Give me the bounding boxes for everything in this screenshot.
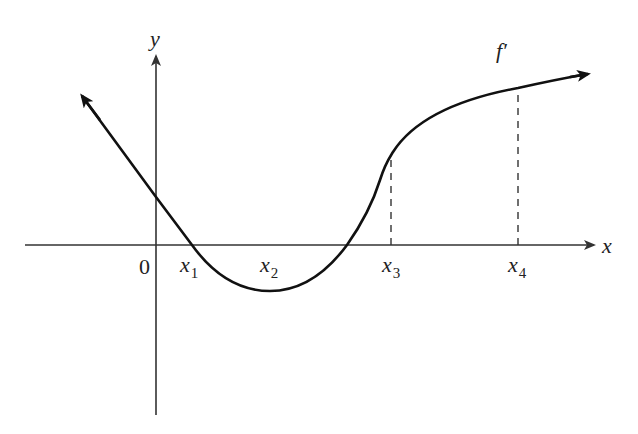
graph-canvas <box>0 0 638 434</box>
tick-label-x4: x4 <box>508 254 526 276</box>
tick-label-x1: x1 <box>180 254 198 276</box>
curve-label: f′ <box>496 40 507 62</box>
origin-label: 0 <box>139 256 150 278</box>
graph-figure: y x 0 f′ x1 x2 x3 x4 <box>0 0 638 434</box>
tick-label-x3: x3 <box>382 254 400 276</box>
y-axis-label: y <box>150 28 160 50</box>
x-axis-label: x <box>602 235 612 257</box>
curve-left-arrow-icon <box>82 96 100 120</box>
f-prime-curve <box>82 75 582 291</box>
curve-right-arrow-icon <box>570 74 588 77</box>
tick-label-x2: x2 <box>260 254 278 276</box>
